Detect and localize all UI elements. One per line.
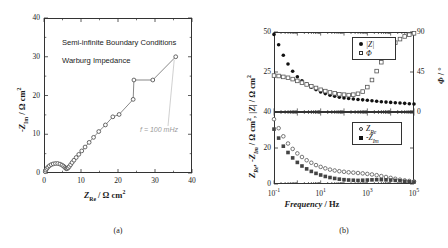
yaxis-zim-sub: Im [253,147,259,154]
panel-b-ytick: 0 [417,108,431,116]
panel-a-frequency-annotation: f = 100 mHz [140,126,178,133]
panel-a-note-line1: Semi-infinite Boundary Conditions [62,38,176,47]
panel-b-top-legend: |Z| Φ [352,37,396,60]
yaxis-symbol: -Z [17,124,27,132]
yaxis-zim-symbol: , -Z [247,154,257,166]
panel-a-xtick: 20 [114,177,122,185]
legend-entry-magnitude: |Z| [355,40,391,49]
legend-entry-zim: -ZIm [355,134,397,143]
panel-b-ytick: 45 [417,68,431,76]
panel-b-xtick: 105 [409,188,419,197]
panel-a-caption: (a) [114,226,123,235]
legend-label-magnitude: |Z| [366,40,374,49]
figure-root: Semi-infinite Boundary Conditions Warbur… [0,0,448,248]
panel-a-xtick: 30 [151,177,159,185]
filled-square-icon [355,136,366,140]
open-circle-icon [355,127,366,131]
panel-a-ytick: 30 [26,53,40,61]
xaxis-frequency-word: Frequency [285,199,323,209]
xaxis-subscript: Re [89,196,96,202]
yaxis-subscript: Im [23,117,29,124]
open-square-icon [355,51,366,55]
yaxis-unit-2-exp: 2 [246,75,252,78]
panel-b-ytick: 90 [417,28,431,36]
panel-b-xaxis-label: Frequency / Hz [285,199,340,209]
panel-a-note-line2: Warburg Impedance [62,56,131,65]
panel-b-xtick: 103 [362,188,372,197]
panel-b-ytick: 20 [257,144,271,152]
legend-label-phase: Φ [366,49,372,58]
panel-b-xtick: 101 [315,188,325,197]
panel-a-ytick: 0 [26,169,40,177]
xaxis-frequency-unit: / Hz [322,199,339,209]
yaxis-unit-1: / Ω cm [247,121,257,147]
legend-entry-phase: Φ [355,49,391,58]
panel-a-xtick: 0 [42,177,46,185]
panel-b-bottom-legend: ZRe -ZIm [352,122,402,145]
panel-b-caption: (b) [339,226,348,235]
phase-unit: / ° [436,67,446,77]
yaxis-unit-2: , |Z| / Ω cm [247,78,257,118]
xaxis-unit-exponent: 2 [122,189,125,195]
filled-circle-icon [355,42,366,46]
panel-a-yaxis-label: -ZIm / Ω cm2 [16,88,29,132]
yaxis-unit: / Ω cm [17,90,27,116]
yaxis-zre-sub: Re [253,166,259,172]
panel-b-ytick: 50 [257,28,271,36]
panel-b-yaxis-label: ZRe, -ZIm / Ω cm2, |Z| / Ω cm2 [246,75,259,178]
yaxis-unit-exponent: 2 [16,88,22,91]
phase-symbol: Φ [436,77,446,84]
yaxis-unit-1-exp: 2 [246,118,252,121]
panel-a: Semi-infinite Boundary Conditions Warbur… [0,0,224,248]
panel-a-ytick: 40 [26,14,40,22]
panel-a-xtick: 40 [188,177,196,185]
panel-b-ytick: 0 [257,180,271,188]
panel-a-xtick: 10 [77,177,85,185]
yaxis-zre-symbol: Z [247,173,257,178]
xaxis-unit: / Ω cm [96,190,122,200]
panel-b-ytick: 40 [257,108,271,116]
panel-b-right-axis-label: Φ / ° [436,67,446,84]
panel-b-ytick: 25 [257,68,271,76]
panel-b: |Z| Φ ZRe -ZIm 10-1101103105 50254020090… [224,0,448,248]
panel-b-xtick: 10-1 [268,188,280,197]
panel-a-xaxis-label: ZRe / Ω cm2 [84,189,125,202]
legend-label-zim: -ZIm [366,133,379,144]
